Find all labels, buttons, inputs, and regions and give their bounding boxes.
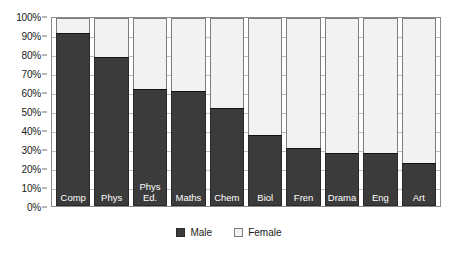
bar-category-label: Fren	[287, 193, 319, 204]
bar-category-label: Chem	[211, 193, 243, 204]
y-axis-tick-mark	[42, 131, 47, 132]
bar-group[interactable]: Art	[402, 18, 436, 206]
bar-group[interactable]: PhysEd.	[133, 18, 167, 206]
y-axis-tick-mark	[42, 169, 47, 170]
legend-label: Female	[248, 227, 281, 238]
bar-segment-male[interactable]: Phys	[94, 57, 128, 206]
bar-segment-male[interactable]: Biol	[248, 135, 282, 206]
y-axis-tick-label: 100%	[16, 12, 41, 23]
legend-item-male[interactable]: Male	[176, 227, 212, 238]
bar-segment-male[interactable]: Eng	[363, 153, 397, 206]
bar-segment-female[interactable]	[325, 18, 359, 153]
y-axis-tick-mark	[42, 55, 47, 56]
y-axis-tick-label: 80%	[22, 50, 41, 61]
bar-group[interactable]: Fren	[286, 18, 320, 206]
y-axis-tick-label: 20%	[22, 164, 41, 175]
bar-series-container: CompPhysPhysEd.MathsChemBiolFrenDramaEng…	[52, 18, 440, 206]
y-axis-tick-mark	[42, 17, 47, 18]
y-axis-tick-label: 50%	[22, 107, 41, 118]
y-axis-tick-mark	[42, 207, 47, 208]
bar-category-label: Biol	[249, 193, 281, 204]
bar-segment-female[interactable]	[248, 18, 282, 135]
plot-area: CompPhysPhysEd.MathsChemBiolFrenDramaEng…	[51, 17, 441, 207]
bar-group[interactable]: Chem	[210, 18, 244, 206]
legend-swatch-male-icon	[176, 228, 185, 237]
bar-segment-male[interactable]: Comp	[56, 33, 90, 206]
y-axis-tick-label: 10%	[22, 183, 41, 194]
bar-category-label: Maths	[172, 193, 204, 204]
stacked-bar-chart: 100%90%80%70%60%50%40%30%20%10%0% CompPh…	[0, 0, 458, 257]
bar-group[interactable]: Drama	[325, 18, 359, 206]
y-axis-tick-mark	[42, 112, 47, 113]
bar-category-label: Comp	[57, 193, 89, 204]
bar-segment-female[interactable]	[210, 18, 244, 108]
bar-segment-female[interactable]	[133, 18, 167, 89]
y-axis-tick-mark	[42, 36, 47, 37]
bar-segment-male[interactable]: Drama	[325, 153, 359, 206]
y-axis: 100%90%80%70%60%50%40%30%20%10%0%	[0, 17, 47, 207]
bar-category-label: PhysEd.	[134, 182, 166, 203]
y-axis-tick-label: 40%	[22, 126, 41, 137]
legend-item-female[interactable]: Female	[234, 227, 281, 238]
bar-category-label: Phys	[95, 193, 127, 204]
bar-group[interactable]: Phys	[94, 18, 128, 206]
bar-segment-male[interactable]: Fren	[286, 148, 320, 206]
bar-group[interactable]: Biol	[248, 18, 282, 206]
bar-segment-male[interactable]: PhysEd.	[133, 89, 167, 206]
legend-swatch-female-icon	[234, 228, 243, 237]
bar-segment-male[interactable]: Chem	[210, 108, 244, 206]
bar-segment-female[interactable]	[171, 18, 205, 91]
y-axis-tick-label: 0%	[27, 202, 41, 213]
y-axis-tick-label: 90%	[22, 31, 41, 42]
y-axis-tick-label: 30%	[22, 145, 41, 156]
bar-segment-male[interactable]: Maths	[171, 91, 205, 206]
bar-segment-female[interactable]	[363, 18, 397, 153]
y-axis-tick-mark	[42, 93, 47, 94]
bar-group[interactable]: Maths	[171, 18, 205, 206]
chart-legend: MaleFemale	[0, 227, 458, 238]
y-axis-tick-label: 70%	[22, 69, 41, 80]
bar-segment-female[interactable]	[94, 18, 128, 57]
bar-segment-female[interactable]	[56, 18, 90, 33]
bar-segment-male[interactable]: Art	[402, 163, 436, 206]
bar-category-label: Eng	[364, 193, 396, 204]
y-axis-tick-label: 60%	[22, 88, 41, 99]
y-axis-tick-mark	[42, 74, 47, 75]
legend-label: Male	[190, 227, 212, 238]
bar-segment-female[interactable]	[402, 18, 436, 163]
y-axis-tick-mark	[42, 188, 47, 189]
bar-group[interactable]: Eng	[363, 18, 397, 206]
bar-category-label: Drama	[326, 193, 358, 204]
y-axis-tick-mark	[42, 150, 47, 151]
bar-group[interactable]: Comp	[56, 18, 90, 206]
bar-segment-female[interactable]	[286, 18, 320, 148]
bar-category-label: Art	[403, 193, 435, 204]
